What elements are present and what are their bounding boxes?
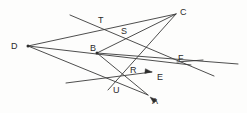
lines-group	[28, 14, 238, 95]
arrow-to-e	[145, 69, 152, 74]
point-label-c: C	[180, 8, 187, 17]
point-label-a: A	[152, 97, 158, 106]
point-label-d: D	[11, 42, 18, 51]
segment-c-to-b	[97, 14, 176, 53]
point-label-t: T	[98, 16, 104, 25]
vertex-dot-d	[27, 45, 30, 48]
point-label-s: S	[121, 27, 127, 36]
point-label-b: B	[90, 44, 96, 53]
segment-c-to-u-long	[108, 14, 176, 90]
point-label-r: R	[130, 66, 137, 75]
geometry-figure: CTSDBFREUA	[0, 0, 247, 113]
geometry-canvas	[0, 0, 247, 113]
point-label-u: U	[113, 86, 120, 95]
point-label-f: F	[178, 54, 184, 63]
point-label-e: E	[157, 73, 163, 82]
segment-u-shallow-line	[66, 72, 152, 83]
